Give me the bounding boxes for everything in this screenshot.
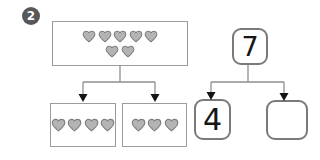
heart-icon <box>67 118 82 132</box>
heart-icon <box>113 30 127 43</box>
bond-answer-box[interactable] <box>266 100 308 140</box>
right-branch-line <box>211 65 284 94</box>
heart-row <box>131 118 179 132</box>
heart-icon <box>100 118 115 132</box>
worksheet-problem: 2 7 4 <box>0 0 320 160</box>
heart-icon <box>84 118 99 132</box>
problem-number-badge: 2 <box>22 7 40 25</box>
heart-row-top <box>82 30 158 43</box>
heart-icon <box>51 118 66 132</box>
heart-icon <box>144 30 158 43</box>
bond-part-value: 4 <box>203 105 222 135</box>
down-arrowhead <box>151 94 160 102</box>
bond-part-box: 4 <box>194 99 231 140</box>
whole-hearts-box <box>52 21 188 66</box>
heart-icon <box>147 118 162 132</box>
heart-icon <box>105 45 119 58</box>
heart-row <box>51 118 116 132</box>
heart-icon <box>129 30 143 43</box>
heart-icon <box>121 45 135 58</box>
left-branch-line <box>83 66 155 95</box>
bond-whole-value: 7 <box>241 33 258 60</box>
part-hearts-box-1 <box>50 103 116 147</box>
bond-whole-box: 7 <box>232 28 268 65</box>
part-hearts-box-2 <box>122 103 187 147</box>
heart-row-bottom <box>105 45 135 58</box>
problem-number: 2 <box>27 10 35 22</box>
heart-icon <box>98 30 112 43</box>
heart-icon <box>131 118 146 132</box>
heart-icon <box>164 118 179 132</box>
down-arrowhead <box>79 94 88 102</box>
heart-icon <box>82 30 96 43</box>
